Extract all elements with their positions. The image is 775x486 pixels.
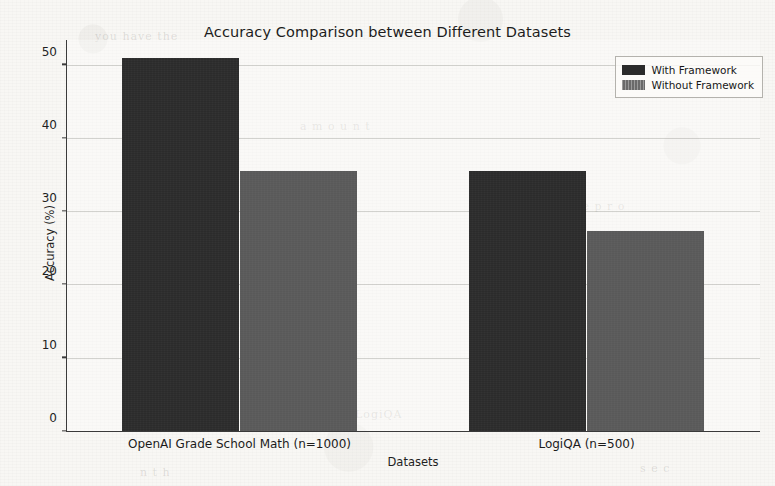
legend-swatch-without-framework <box>622 80 645 90</box>
y-tick-label: 20 <box>42 264 66 278</box>
bar-with-framework <box>122 58 240 430</box>
y-tick-label: 30 <box>42 191 66 205</box>
legend-item[interactable]: Without Framework <box>622 77 755 92</box>
chart-legend: With Framework Without Framework <box>615 56 764 98</box>
legend-label: Without Framework <box>652 79 755 91</box>
legend-label: With Framework <box>652 64 737 76</box>
x-axis-spine <box>66 431 760 432</box>
x-axis-label: Datasets <box>66 455 760 469</box>
y-tick-label: 40 <box>42 118 66 132</box>
y-tick-label: 0 <box>49 411 66 425</box>
y-tick-label: 10 <box>42 338 66 352</box>
y-tick-label: 50 <box>42 45 66 59</box>
bar-with-framework <box>469 171 587 430</box>
bar-without-framework <box>587 231 705 430</box>
x-tick-label: OpenAI Grade School Math (n=1000) <box>128 432 351 451</box>
chart-title: Accuracy Comparison between Different Da… <box>0 24 775 40</box>
chart-figure: you have the a m o u n t t h e p r o Log… <box>0 0 775 486</box>
legend-item[interactable]: With Framework <box>622 62 755 77</box>
y-axis-spine <box>66 40 67 432</box>
legend-swatch-with-framework <box>622 65 645 75</box>
bar-without-framework <box>240 171 358 430</box>
x-tick-label: LogiQA (n=500) <box>538 432 634 451</box>
plot-area: 01020304050 OpenAI Grade School Math (n=… <box>66 40 760 432</box>
